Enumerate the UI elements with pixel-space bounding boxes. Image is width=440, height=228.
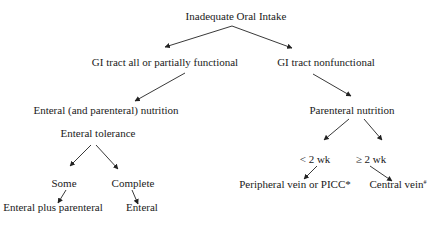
arrow-parenteral-to-lt2wk — [324, 119, 349, 140]
node-gi-tract-functional: GI tract all or partially functional — [92, 56, 238, 69]
node-label: Peripheral vein or PICC* — [239, 178, 351, 190]
node-enteral-tolerance: Enteral tolerance — [61, 127, 136, 140]
node-label: Complete — [112, 177, 155, 189]
footnote-marker: # — [424, 179, 427, 185]
node-gi-tract-nonfunctional: GI tract nonfunctional — [277, 56, 375, 69]
arrow-tolerance-to-complete — [96, 145, 118, 169]
arrow-root-to-gi_nonfunctional — [232, 26, 292, 48]
node-label: Enteral (and parenteral) nutrition — [33, 104, 178, 116]
arrow-root-to-gi_functional — [165, 26, 232, 47]
arrow-tolerance-to-some — [70, 145, 91, 166]
node-label: Enteral plus parenteral — [3, 201, 103, 213]
node-peripheral-vein-or-picc: Peripheral vein or PICC* — [239, 178, 351, 191]
arrow-gi_nonfunctional-to-parenteral — [313, 74, 351, 96]
node-label: Enteral tolerance — [61, 127, 136, 139]
node-parenteral-nutrition: Parenteral nutrition — [309, 104, 394, 117]
node-label: Parenteral nutrition — [309, 104, 394, 116]
node-label: Some — [51, 177, 76, 189]
node-central-vein: Central vein# — [369, 178, 426, 191]
arrow-parenteral-to-ge2wk — [364, 119, 382, 140]
node-some: Some — [51, 177, 76, 190]
node-complete: Complete — [112, 177, 155, 190]
node-enteral: Enteral — [126, 201, 158, 214]
node-label: GI tract nonfunctional — [277, 56, 375, 68]
node-enteral-plus-parenteral: Enteral plus parenteral — [3, 201, 103, 214]
node-label: Inadequate Oral Intake — [186, 10, 287, 22]
node-label: < 2 wk — [300, 153, 331, 165]
node-at-least-2wk: ≥ 2 wk — [356, 153, 386, 166]
arrow-gi_functional-to-enteral_parenteral — [135, 73, 185, 101]
node-less-than-2wk: < 2 wk — [300, 153, 331, 166]
node-label: GI tract all or partially functional — [92, 56, 238, 68]
node-label: ≥ 2 wk — [356, 153, 386, 165]
node-label: Enteral — [126, 201, 158, 213]
node-label: Central vein — [369, 178, 423, 190]
node-inadequate-oral-intake: Inadequate Oral Intake — [186, 10, 287, 23]
node-enteral-and-parenteral-nutrition: Enteral (and parenteral) nutrition — [33, 104, 178, 117]
